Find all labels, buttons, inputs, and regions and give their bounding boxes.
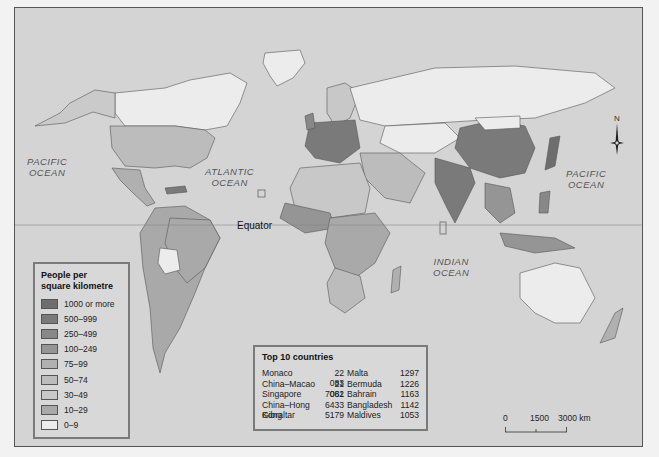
ocean-label-pacific-east: PACIFIC OCEAN: [566, 168, 606, 190]
top10-row: Malta1297: [347, 368, 419, 379]
russia: [350, 66, 615, 126]
legend-item: 30–49: [41, 387, 122, 402]
ocean-label-indian: INDIAN OCEAN: [433, 256, 469, 278]
legend-swatch: [41, 405, 58, 415]
top10-row: Bermuda1226: [347, 379, 419, 390]
mexico: [112, 168, 155, 206]
middle-east: [360, 153, 425, 203]
legend-swatch: [41, 344, 58, 354]
ocean-label-atlantic: ATLANTIC OCEAN: [205, 166, 254, 188]
central-asia: [380, 123, 460, 153]
top10-row: Bangladesh1142: [347, 400, 419, 411]
legend-swatch: [41, 390, 58, 400]
legend-swatch: [41, 359, 58, 369]
top10-row: Bahrain1163: [347, 389, 419, 400]
legend-item: 250–499: [41, 326, 122, 341]
legend-swatch: [41, 314, 58, 324]
australia: [520, 263, 595, 323]
new-zealand: [600, 308, 623, 343]
top10-row: China–Macao21 061: [262, 379, 344, 390]
legend-box: People per square kilometre 1000 or more…: [33, 262, 130, 439]
legend-swatch: [41, 420, 58, 430]
top-10-countries-box: Top 10 countries Monaco22 083 China–Maca…: [253, 345, 428, 431]
ocean-label-pacific-west: PACIFIC OCEAN: [27, 156, 67, 178]
equator-label: Equator: [237, 220, 272, 231]
se-asia: [485, 183, 515, 223]
canada: [115, 73, 247, 130]
legend-swatch: [41, 375, 58, 385]
legend-item: 0–9: [41, 418, 122, 433]
top10-row: Monaco22 083: [262, 368, 344, 379]
legend-swatch: [41, 329, 58, 339]
top10-row: Gibraltar5179: [262, 410, 344, 421]
legend-item: 75–99: [41, 357, 122, 372]
india: [435, 158, 475, 223]
indonesia: [500, 233, 575, 253]
uk: [305, 113, 315, 130]
top10-row: Maldives1053: [347, 410, 419, 421]
madagascar: [391, 266, 401, 293]
greenland: [263, 50, 305, 86]
alaska: [35, 90, 115, 126]
scale-bar: 0 1500 3000 km: [503, 413, 623, 443]
top10-title: Top 10 countries: [262, 352, 419, 362]
philippines: [539, 191, 550, 213]
world-map-frame: PACIFIC OCEAN ATLANTIC OCEAN INDIAN OCEA…: [14, 7, 643, 447]
legend-item: 500–999: [41, 311, 122, 326]
legend-item: 50–74: [41, 372, 122, 387]
north-arrow-icon: N: [610, 114, 624, 161]
legend-item: 10–29: [41, 402, 122, 417]
japan: [545, 136, 560, 170]
top10-row: China–Hong Kong6433: [262, 400, 344, 411]
usa: [110, 126, 215, 168]
legend-title: People per square kilometre: [41, 270, 122, 292]
top10-row: Singapore7082: [262, 389, 344, 400]
legend-item: 1000 or more: [41, 296, 122, 311]
legend-item: 100–249: [41, 342, 122, 357]
legend-swatch: [41, 299, 58, 309]
